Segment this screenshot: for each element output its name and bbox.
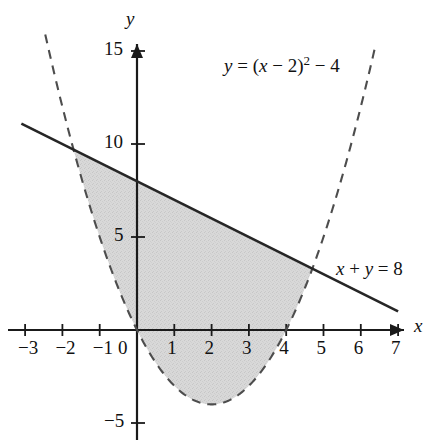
y-tick-label: 5	[114, 224, 124, 246]
graph-figure: −3−2−1123456715105−50 x y y = (x − 2)2 −…	[0, 0, 432, 448]
x-tick-label: 6	[354, 337, 364, 359]
x-tick-label: 4	[279, 337, 289, 359]
y-tick-label: 10	[104, 131, 123, 153]
line-eq-text: x + y = 8	[336, 258, 403, 279]
origin-label: 0	[118, 337, 128, 359]
y-tick-label: 15	[104, 38, 123, 60]
x-tick-label: 3	[242, 337, 252, 359]
x-tick-label: 2	[205, 337, 215, 359]
line-equation-label: x + y = 8	[336, 258, 403, 280]
x-tick-label: −2	[55, 337, 75, 359]
x-tick-label: 7	[391, 337, 401, 359]
plot-canvas	[0, 0, 432, 448]
x-tick-label: −3	[18, 337, 38, 359]
parabola-equation-label: y = (x − 2)2 − 4	[224, 53, 340, 77]
x-tick-label: 1	[167, 337, 177, 359]
x-tick-label: −1	[93, 337, 113, 359]
x-axis-label: x	[414, 315, 422, 337]
parabola-eq-text: y = (x − 2)2 − 4	[224, 55, 340, 76]
shaded-region	[74, 150, 313, 405]
x-axis-arrow	[390, 324, 404, 336]
x-tick-label: 5	[317, 337, 327, 359]
y-tick-label: −5	[104, 410, 124, 432]
y-axis-label: y	[126, 8, 134, 30]
